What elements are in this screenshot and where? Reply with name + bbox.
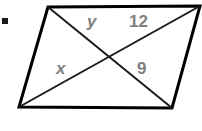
segment-label-9: 9 [137, 60, 146, 77]
geometry-figure: y 12 x 9 [0, 0, 202, 131]
parallelogram-diagram-svg [0, 0, 202, 131]
segment-label-y: y [87, 13, 96, 30]
segment-label-x: x [56, 60, 65, 77]
segment-label-12: 12 [129, 13, 148, 30]
